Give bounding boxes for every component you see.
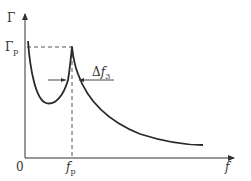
y-axis-label: Γ xyxy=(7,12,15,24)
resonance-diagram: Γ Γp Δf3 0 fp f xyxy=(0,0,251,181)
response-curve xyxy=(28,41,203,145)
diagram-canvas xyxy=(0,0,251,181)
x-axis-label: f xyxy=(225,161,229,173)
origin-label: 0 xyxy=(16,161,24,173)
peak-gamma-label: Γp xyxy=(5,41,18,56)
peak-guide-lines xyxy=(27,47,72,158)
peak-frequency-label: fp xyxy=(66,161,76,176)
bandwidth-label: Δf3 xyxy=(92,66,110,81)
